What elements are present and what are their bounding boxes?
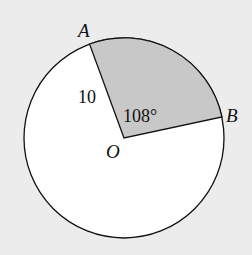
point-a-label: A (76, 20, 90, 41)
circle-sector-diagram: A B O 10 108° (0, 0, 252, 255)
angle-label: 108° (123, 106, 157, 126)
center-o-label: O (106, 141, 120, 162)
diagram-canvas: A B O 10 108° (0, 0, 252, 255)
radius-label: 10 (78, 87, 96, 107)
point-b-label: B (226, 105, 238, 126)
